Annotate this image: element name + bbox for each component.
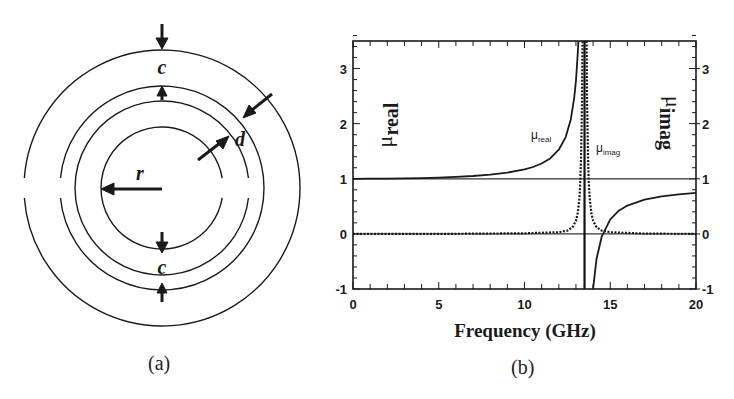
radius-arrow-icon [101,183,162,195]
x-tick-label: 0 [349,297,356,312]
x-axis-label: Frequency (GHz) [454,320,596,342]
y-tick-label-right: -1 [702,282,714,297]
label-c-bottom: c [158,256,167,278]
y-axis-label-left: μreal [372,102,402,147]
axis-ticks [353,35,700,289]
y-tick-label-right: 3 [702,62,709,77]
y-tick-label-left: 1 [340,172,347,187]
y-tick-label-right: 2 [702,117,709,132]
label-r: r [136,162,144,184]
y-axis-label-right: μimag [655,96,686,150]
label-c-top: c [158,56,167,78]
y-tick-label-right: 0 [702,227,709,242]
x-tick-label: 10 [517,297,531,312]
x-tick-label: 15 [603,297,617,312]
mu-real-curve [593,193,696,289]
label-d: d [235,128,246,150]
reference-lines [353,41,696,289]
x-tick-label: 20 [689,297,703,312]
y-tick-label-left: 3 [340,62,347,77]
x-tick-label: 5 [435,297,442,312]
permeability-chart: 05101520-10123-10123 μreal μimag μreal μ… [320,0,734,399]
tick-labels: 05101520-10123-10123 [335,62,713,312]
split-ring-svg: c c d r [0,0,330,399]
caption-b: (b) [511,356,534,379]
curve-label-real: μreal [531,128,551,144]
arrow-up-icon [157,86,167,100]
y-tick-label-left: 0 [340,227,347,242]
curves [353,41,696,289]
arrow-down-icon [156,232,168,253]
arrow-up-icon [157,283,167,302]
arrow-diagonal-in-icon [243,94,272,118]
plot-frame [353,41,696,289]
curve-label-imag: μimag [596,141,620,157]
arrow-down-icon [156,24,168,49]
y-tick-label-left: 2 [340,117,347,132]
split-ring-diagram: c c d r (a) [0,0,330,399]
caption-a: (a) [148,352,170,375]
y-tick-label-left: -1 [335,282,347,297]
y-tick-label-right: 1 [702,172,709,187]
chart-svg: 05101520-10123-10123 μreal μimag μreal μ… [320,0,734,399]
dimension-arrows [101,24,272,302]
mu-imag-curve [587,41,696,234]
